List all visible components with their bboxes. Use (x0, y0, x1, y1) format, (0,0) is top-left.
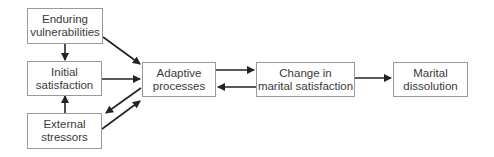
node-label-line2: vulnerabilities (30, 26, 100, 39)
node-adaptive-processes: Adaptive processes (142, 62, 216, 97)
node-label-line1: Change in (279, 67, 331, 80)
node-marital-dissolution: Marital dissolution (393, 62, 468, 97)
node-label-line2: marital satisfaction (258, 80, 353, 93)
arrow-external-to-adaptive (102, 101, 140, 129)
node-label-line1: External (43, 118, 85, 131)
arrow-enduring-to-adaptive (103, 37, 140, 64)
arrow-adaptive-to-external (106, 88, 141, 113)
node-label-line1: Enduring (42, 13, 88, 26)
node-external-stressors: External stressors (27, 113, 102, 149)
node-label-line2: stressors (41, 131, 88, 144)
node-label-line1: Marital (413, 67, 448, 80)
node-label-line2: processes (153, 80, 205, 93)
node-initial-satisfaction: Initial satisfaction (27, 61, 102, 96)
node-enduring-vulnerabilities: Enduring vulnerabilities (27, 8, 103, 44)
node-label-line2: satisfaction (36, 79, 94, 92)
node-label-line2: dissolution (403, 80, 457, 93)
node-change-in-marital-satisfaction: Change in marital satisfaction (256, 62, 355, 97)
node-label-line1: Initial (51, 66, 78, 79)
vulnerability-stress-adaptation-diagram: Enduring vulnerabilities Initial satisfa… (0, 0, 494, 157)
node-label-line1: Adaptive (157, 67, 202, 80)
